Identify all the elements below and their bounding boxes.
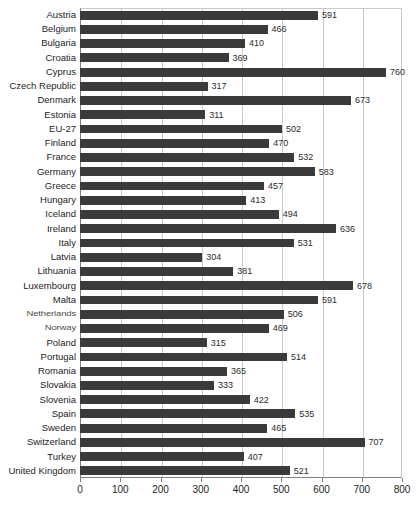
bar (80, 424, 267, 433)
bar-value-label: 410 (245, 36, 264, 50)
bar (80, 68, 386, 77)
category-label: Greece (45, 179, 76, 193)
bar-row: Ireland636 (80, 222, 402, 236)
bar (80, 110, 205, 119)
category-label: Italy (59, 236, 76, 250)
bar (80, 466, 290, 475)
bar (80, 53, 229, 62)
category-label: Czech Republic (9, 79, 76, 93)
bar (80, 324, 269, 333)
x-tick-label: 100 (112, 484, 129, 495)
x-tick-mark (362, 478, 363, 482)
bar-value-label: 673 (351, 93, 370, 107)
category-label: Portugal (41, 350, 76, 364)
category-label: Bulgaria (41, 36, 76, 50)
bar (80, 367, 227, 376)
x-tick-label: 700 (353, 484, 370, 495)
x-tick-label: 200 (152, 484, 169, 495)
bar-row: Slovakia333 (80, 378, 402, 392)
bar-row: Sweden465 (80, 421, 402, 435)
bar (80, 239, 294, 248)
bar-value-label: 532 (294, 150, 313, 164)
bar-row: Belgium466 (80, 22, 402, 36)
bar-row: Iceland494 (80, 207, 402, 221)
bar (80, 267, 233, 276)
category-label: Lithuania (37, 264, 76, 278)
x-tick-mark (322, 478, 323, 482)
bar-value-label: 502 (282, 122, 301, 136)
bar-row: Germany583 (80, 165, 402, 179)
x-tick-label: 800 (394, 484, 411, 495)
bar (80, 153, 294, 162)
category-label: Denmark (37, 93, 76, 107)
x-tick-mark (201, 478, 202, 482)
bar-row: Netherlands506 (80, 307, 402, 321)
bar (80, 296, 318, 305)
bar-row: Italy531 (80, 236, 402, 250)
bar (80, 82, 208, 91)
x-tick-mark (281, 478, 282, 482)
category-label: United Kingdom (8, 464, 76, 478)
bar (80, 39, 245, 48)
bar-value-label: 707 (365, 435, 384, 449)
bar-row: Portugal514 (80, 350, 402, 364)
bar-row: Norway469 (80, 321, 402, 335)
category-label: Switzerland (27, 435, 76, 449)
bar-row: United Kingdom521 (80, 464, 402, 478)
x-tick-mark (80, 478, 81, 482)
x-tick-label: 500 (273, 484, 290, 495)
bar (80, 25, 268, 34)
bar-value-label: 470 (269, 136, 288, 150)
bar-row: Slovenia422 (80, 393, 402, 407)
bar-row: Latvia304 (80, 250, 402, 264)
x-tick-mark (402, 478, 403, 482)
bar-value-label: 304 (202, 250, 221, 264)
bar-row: Cyprus760 (80, 65, 402, 79)
bar (80, 381, 214, 390)
category-label: Poland (46, 336, 76, 350)
bar-value-label: 678 (353, 279, 372, 293)
bar-value-label: 636 (336, 222, 355, 236)
bar-row: Switzerland707 (80, 435, 402, 449)
bar-value-label: 466 (268, 22, 287, 36)
bar-row: Croatia369 (80, 51, 402, 65)
bar-row: France532 (80, 150, 402, 164)
category-label: France (46, 150, 76, 164)
bar (80, 253, 202, 262)
bar-row: Czech Republic317 (80, 79, 402, 93)
bar-rows: Austria591Belgium466Bulgaria410Croatia36… (80, 8, 402, 478)
bar (80, 452, 244, 461)
bar-row: EU-27502 (80, 122, 402, 136)
category-label: Ireland (47, 222, 76, 236)
bar-value-label: 333 (214, 378, 233, 392)
x-axis: 0100200300400500600700800 (80, 478, 402, 508)
category-label: Sweden (42, 421, 76, 435)
bar (80, 96, 351, 105)
bar (80, 224, 336, 233)
category-label: Croatia (45, 51, 76, 65)
bar-value-label: 407 (244, 450, 263, 464)
bar-value-label: 514 (287, 350, 306, 364)
category-label: EU-27 (49, 122, 76, 136)
bar (80, 438, 365, 447)
bar-value-label: 381 (233, 264, 252, 278)
bar (80, 182, 264, 191)
bar-value-label: 465 (267, 421, 286, 435)
category-label: Cyprus (46, 65, 76, 79)
bar (80, 338, 207, 347)
bar-chart: Austria591Belgium466Bulgaria410Croatia36… (0, 0, 420, 513)
category-label: Austria (46, 8, 76, 22)
bar-row: Lithuania381 (80, 264, 402, 278)
bar-value-label: 535 (295, 407, 314, 421)
bar-value-label: 469 (269, 321, 288, 335)
bar-row: Poland315 (80, 336, 402, 350)
category-label: Norway (45, 323, 76, 333)
category-label: Romania (38, 364, 76, 378)
bar-value-label: 317 (208, 79, 227, 93)
x-tick-label: 400 (233, 484, 250, 495)
bar (80, 196, 246, 205)
bar-row: Luxembourg678 (80, 279, 402, 293)
category-label: Belgium (42, 22, 76, 36)
category-label: Iceland (45, 207, 76, 221)
bar-row: Austria591 (80, 8, 402, 22)
